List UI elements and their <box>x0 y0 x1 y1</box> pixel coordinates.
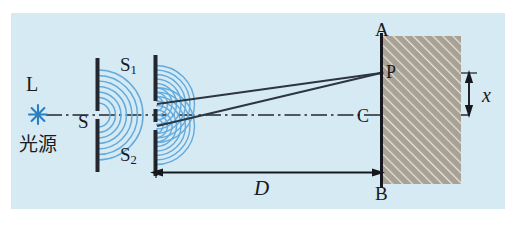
distance-d-label: D <box>254 178 269 199</box>
screen-bottom-label: B <box>375 184 388 203</box>
point-p-marker <box>380 71 384 75</box>
observation-screen <box>381 33 461 188</box>
slit-1-label-base: S <box>120 54 131 75</box>
slit-2-label-subscript: 2 <box>131 153 137 167</box>
lamp-label: L <box>26 74 38 94</box>
light-source-label: 光源 <box>16 134 60 155</box>
slit-1-label-subscript: 1 <box>131 63 137 77</box>
slit-2-label-base: S <box>120 144 131 165</box>
distance-arrow-x <box>461 70 477 118</box>
fringe-x-label: x <box>482 85 491 105</box>
light-rays <box>157 73 381 126</box>
slit-1-label: S1 <box>120 55 137 77</box>
slit-2-label: S2 <box>120 145 137 167</box>
light-source-starburst-icon <box>29 105 47 124</box>
single-slit-barrier <box>96 58 100 172</box>
screen-top-label: A <box>375 20 389 39</box>
point-p-label: P <box>386 63 396 81</box>
single-slit-label: S <box>78 112 89 131</box>
double-slit-barrier <box>154 55 158 176</box>
screen-center-label: C <box>357 107 369 125</box>
optics-figure: L 光源 S S1 S2 A B C P D x <box>0 0 518 230</box>
